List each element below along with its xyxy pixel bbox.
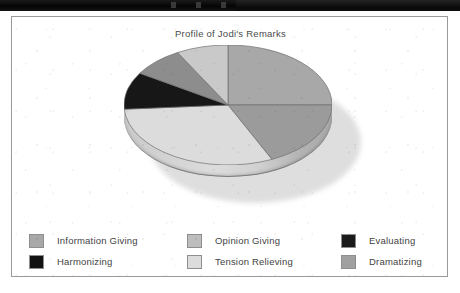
legend-item-harmonizing[interactable]: Harmonizing (29, 251, 113, 272)
chart-title: Profile of Jodi's Remarks (12, 28, 449, 39)
legend-label-dramatizing: Dramatizing (369, 256, 422, 267)
legend-swatch-evaluating (341, 234, 356, 248)
legend-swatch-information-giving (29, 234, 44, 248)
legend-label-harmonizing: Harmonizing (57, 256, 113, 267)
pie-top-face (124, 45, 332, 165)
legend-item-opinion-giving[interactable]: Opinion Giving (187, 230, 280, 251)
legend-item-information-giving[interactable]: Information Giving (29, 230, 138, 251)
pie-slices-svg (124, 45, 332, 165)
legend-swatch-tension-relieving (187, 255, 202, 269)
legend-swatch-harmonizing (29, 255, 44, 269)
pie-chart-plot-area (12, 41, 449, 201)
titlebar-dot (221, 2, 226, 8)
legend-item-evaluating[interactable]: Evaluating (341, 230, 415, 251)
chart-frame: Profile of Jodi's Remarks Information Gi… (11, 16, 448, 277)
titlebar-dot (171, 2, 176, 8)
legend-row: Information Giving Opinion Giving Evalua… (12, 230, 449, 251)
chart-legend: Information Giving Opinion Giving Evalua… (12, 220, 449, 276)
legend-label-tension-relieving: Tension Relieving (215, 256, 293, 267)
window-titlebar-strip (0, 0, 460, 11)
pie-slice-information-giving[interactable] (228, 45, 332, 105)
legend-item-tension-relieving[interactable]: Tension Relieving (187, 251, 293, 272)
legend-label-information-giving: Information Giving (57, 235, 138, 246)
legend-swatch-dramatizing (341, 255, 356, 269)
pie-slice-group (124, 45, 332, 165)
legend-row: Harmonizing Tension Relieving Dramatizin… (12, 251, 449, 272)
titlebar-sheen (236, 0, 460, 11)
titlebar-dot (196, 2, 201, 8)
legend-label-opinion-giving: Opinion Giving (215, 235, 280, 246)
legend-swatch-opinion-giving (187, 234, 202, 248)
legend-item-dramatizing[interactable]: Dramatizing (341, 251, 422, 272)
legend-label-evaluating: Evaluating (369, 235, 415, 246)
